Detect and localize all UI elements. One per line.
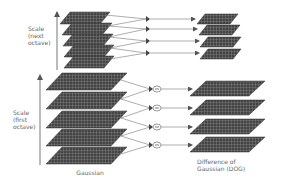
subtract-node — [146, 50, 199, 56]
connectors-first-octave — [121, 80, 150, 154]
subtract-node — [149, 86, 192, 92]
gaussian-layer — [46, 73, 127, 90]
gaussian-layer — [46, 129, 127, 146]
dog-layer — [190, 119, 265, 134]
subtract-node — [149, 142, 192, 148]
subtract-node — [149, 124, 192, 130]
gaussian-layer — [46, 92, 127, 109]
subtract-node — [149, 105, 192, 111]
subtract-node — [146, 26, 197, 32]
dog-layer — [190, 81, 265, 96]
subtract-nodes-next-octave — [146, 16, 199, 56]
dog-stack-next-octave — [197, 14, 241, 59]
dog-layer — [200, 49, 241, 59]
gaussian-layer — [63, 34, 113, 46]
gaussian-layer — [64, 45, 114, 57]
dog-stack-first-octave — [190, 81, 265, 152]
label-gaussian: Gaussian — [68, 169, 112, 176]
dog-layer — [190, 137, 265, 152]
label-dog: Difference of Gaussian (DOG) — [197, 158, 245, 172]
gaussian-layer — [62, 23, 112, 35]
gaussian-layer — [60, 12, 110, 24]
gaussian-layer — [46, 111, 127, 128]
gaussian-stack-first-octave — [46, 73, 127, 164]
dog-layer — [199, 25, 240, 35]
dog-layer — [197, 14, 238, 24]
gaussian-layer — [64, 56, 114, 68]
dog-layer — [190, 100, 265, 115]
gaussian-layer — [46, 147, 127, 164]
subtract-nodes-first-octave — [149, 86, 192, 148]
subtract-node — [146, 16, 195, 22]
gaussian-stack-next-octave — [60, 12, 114, 68]
label-scale-first-octave: Scale (first octave) — [13, 109, 36, 130]
dog-layer — [200, 37, 241, 47]
connectors-next-octave — [106, 15, 146, 59]
subtract-node — [146, 38, 199, 44]
label-scale-next-octave: Scale (next octave) — [28, 25, 51, 46]
sift-dog-diagram: Scale (next octave) Scale (first octave)… — [0, 0, 281, 187]
